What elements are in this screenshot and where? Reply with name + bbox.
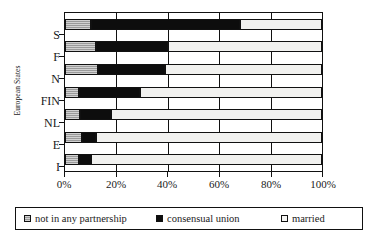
chart-legend: not in any partnership consensual union … (15, 207, 363, 230)
bar-row (65, 132, 322, 143)
legend-label-not-in-any-partnership: not in any partnership (35, 212, 127, 225)
x-tick-label-0: 0% (41, 178, 87, 191)
legend-label-married: married (292, 212, 325, 225)
bar-segment-not-in-any-partnership-nl (65, 109, 80, 120)
x-tick-label-60: 60% (196, 178, 242, 191)
bar-row (65, 109, 322, 120)
x-tick-label-20: 20% (93, 178, 139, 191)
x-tick-label-100: 100% (300, 178, 346, 191)
x-axis-tick (64, 172, 65, 177)
bar-segment-married-n (165, 64, 322, 75)
bar-segment-consensual-union-fin (79, 87, 139, 98)
plot-area (64, 12, 323, 172)
bar-segment-consensual-union-i (79, 154, 91, 165)
x-axis-tick (219, 172, 220, 177)
bar-segment-not-in-any-partnership-s (65, 19, 91, 30)
bar-segment-consensual-union-n (98, 64, 165, 75)
bar-segment-not-in-any-partnership-e (65, 132, 82, 143)
bar-segment-married-s (240, 19, 322, 30)
x-tick-label-80: 80% (248, 178, 294, 191)
x-axis-tick (167, 172, 168, 177)
bar-segment-married-i (91, 154, 322, 165)
bar-row (65, 19, 322, 30)
bar-segment-consensual-union-nl (80, 109, 111, 120)
bar-row (65, 87, 322, 98)
legend-item-consensual-union: consensual union (156, 212, 240, 225)
y-tick-label-n: N (14, 73, 60, 85)
y-tick-label-f: F (14, 51, 60, 63)
legend-swatch-icon-not-in-any-partnership (24, 215, 31, 222)
bar-row (65, 64, 322, 75)
legend-label-consensual-union: consensual union (167, 212, 240, 225)
bar-row (65, 154, 322, 165)
legend-swatch-icon-consensual-union (156, 215, 163, 222)
bar-row (65, 41, 322, 52)
x-axis-tick (116, 172, 117, 177)
bars-layer (65, 13, 322, 171)
legend-item-married: married (281, 212, 325, 225)
y-tick-label-i: I (14, 161, 60, 173)
bar-segment-married-e (96, 132, 322, 143)
y-tick-label-nl: NL (14, 117, 60, 129)
legend-item-not-in-any-partnership: not in any partnership (24, 212, 127, 225)
y-tick-label-e: E (14, 139, 60, 151)
bar-segment-not-in-any-partnership-i (65, 154, 79, 165)
y-tick-label-s: S (14, 29, 60, 41)
y-tick-label-fin: FIN (14, 95, 60, 107)
x-tick-label-40: 40% (144, 178, 190, 191)
legend-swatch-icon-married (281, 215, 288, 222)
y-axis-tick-labels: S F N FIN NL E I (14, 12, 60, 172)
bar-segment-consensual-union-s (91, 19, 240, 30)
bar-segment-not-in-any-partnership-f (65, 41, 96, 52)
bar-segment-married-f (168, 41, 322, 52)
bar-segment-not-in-any-partnership-n (65, 64, 98, 75)
x-axis-tick-labels: 0% 20% 40% 60% 80% 100% (0, 178, 381, 192)
x-axis-tick (322, 172, 323, 177)
bar-segment-married-fin (140, 87, 322, 98)
bar-segment-not-in-any-partnership-fin (65, 87, 79, 98)
bar-segment-married-nl (111, 109, 322, 120)
stacked-bar-chart: European States S F N FIN NL E I 0% 20% … (0, 0, 381, 248)
bar-segment-consensual-union-e (82, 132, 96, 143)
x-axis-tick (271, 172, 272, 177)
bar-segment-consensual-union-f (96, 41, 168, 52)
